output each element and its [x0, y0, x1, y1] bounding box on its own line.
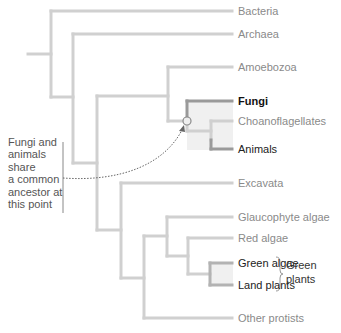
taxon-label-bacteria: Bacteria — [238, 5, 278, 18]
annotation-line: animals — [8, 148, 68, 160]
green-plants-clade-shade — [210, 263, 233, 286]
group-label-line: plants — [286, 272, 317, 286]
taxon-label-amoebozoa: Amoebozoa — [238, 61, 297, 74]
taxon-label-glaucophyte-algae: Glaucophyte algae — [238, 211, 330, 224]
annotation-line: a common — [8, 173, 68, 185]
annotation-line: ancestor at — [8, 186, 68, 198]
taxon-label-fungi: Fungi — [238, 95, 268, 108]
group-label-line: Green — [286, 258, 317, 272]
annotation-line: this point — [8, 198, 68, 210]
taxon-label-other-protists: Other protists — [238, 312, 304, 325]
green-plants-group-label: Green plants — [286, 258, 317, 286]
arrowhead-icon — [179, 125, 185, 132]
taxon-label-excavata: Excavata — [238, 177, 283, 190]
taxon-label-archaea: Archaea — [238, 28, 279, 41]
taxon-label-choanoflagellates: Choanoflagellates — [238, 115, 326, 128]
taxon-label-red-algae: Red algae — [238, 232, 288, 245]
taxon-label-animals: Animals — [238, 143, 277, 156]
common-ancestor-annotation: Fungi and animals share a common ancesto… — [8, 136, 68, 210]
annotation-line: Fungi and — [8, 136, 68, 148]
annotation-line: share — [8, 161, 68, 173]
common-ancestor-node-icon — [183, 117, 191, 125]
annotation-arrow — [63, 128, 183, 179]
